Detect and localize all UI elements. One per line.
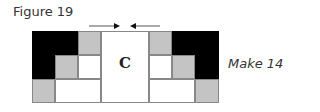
medium-patch (55, 55, 78, 79)
dark-patch (195, 55, 219, 79)
light-patch (78, 55, 101, 79)
center-label: C (102, 54, 148, 72)
quilt-block-diagram: C (32, 31, 219, 103)
dark-patch (32, 31, 78, 55)
light-patch (149, 79, 195, 103)
medium-patch (195, 79, 219, 103)
light-patch (149, 55, 172, 79)
medium-patch (149, 31, 172, 55)
dark-patch (172, 31, 219, 55)
medium-patch (172, 55, 195, 79)
medium-patch (78, 31, 101, 55)
dark-patch (32, 55, 55, 79)
center-patch-c: C (101, 31, 149, 103)
arrow-left-icon (130, 23, 160, 29)
figure-caption: Make 14 (228, 56, 283, 71)
medium-patch (32, 79, 55, 103)
arrow-right-icon (89, 23, 120, 29)
light-patch (55, 79, 101, 103)
